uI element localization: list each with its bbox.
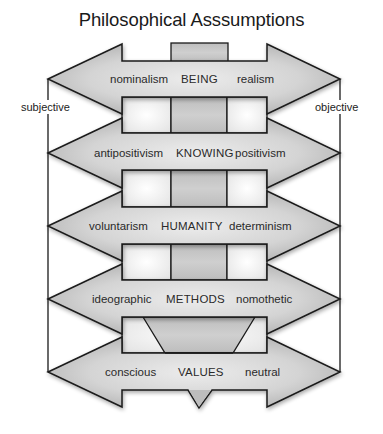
values-left-label: conscious <box>105 365 156 379</box>
box-row-4-trapezoid <box>122 317 267 353</box>
values-center-label: VALUES <box>178 365 224 379</box>
knowing-center-label: KNOWING <box>176 146 234 160</box>
objective-label: objective <box>314 101 359 114</box>
values-bottom-triangle <box>189 390 211 407</box>
methods-right-label: nomothetic <box>236 292 292 306</box>
humanity-center-label: HUMANITY <box>161 219 223 233</box>
box-row-3 <box>122 244 267 280</box>
being-center-label: BEING <box>181 72 218 86</box>
methods-center-label: METHODS <box>166 292 225 306</box>
being-top-box <box>171 43 228 62</box>
humanity-right-label: determinism <box>229 219 292 233</box>
methods-left-label: ideographic <box>92 292 151 306</box>
knowing-left-label: antipositivism <box>94 146 163 160</box>
subjective-label: subjective <box>20 101 71 114</box>
being-right-label: realism <box>237 72 274 86</box>
being-left-label: nominalism <box>110 72 168 86</box>
knowing-right-label: positivism <box>235 146 285 160</box>
humanity-left-label: voluntarism <box>89 219 148 233</box>
values-right-label: neutral <box>245 365 280 379</box>
box-row-1 <box>122 97 267 133</box>
box-row-2 <box>122 170 267 207</box>
